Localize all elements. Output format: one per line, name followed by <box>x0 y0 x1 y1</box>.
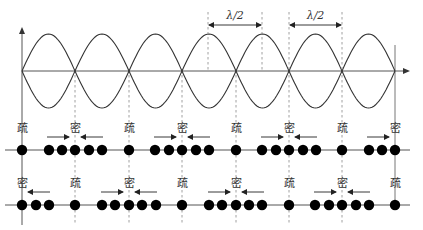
particle-dot <box>390 200 400 210</box>
particle-dot <box>311 145 321 155</box>
particle-dot <box>70 145 80 155</box>
particle-dot <box>257 200 267 210</box>
particle-dot <box>310 200 320 210</box>
particle-dot <box>124 145 134 155</box>
particle-row-1: 疏密疏密疏密疏密 <box>17 121 401 155</box>
particle-dot <box>231 200 241 210</box>
sparse-label: 疏 <box>390 176 401 190</box>
half-wavelength-label: λ/2 <box>225 9 244 22</box>
sparse-label: 疏 <box>337 121 348 135</box>
dense-label: 密 <box>17 176 28 190</box>
particle-dot <box>231 145 241 155</box>
dense-label: 密 <box>337 176 348 190</box>
particle-dot <box>257 145 267 155</box>
wave-lower-lobe <box>342 71 395 108</box>
wave-lower-lobe <box>236 71 289 108</box>
particle-dot <box>17 145 27 155</box>
dense-label: 密 <box>390 121 401 135</box>
particle-dot <box>84 145 94 155</box>
sparse-label: 疏 <box>177 176 188 190</box>
y-axis-arrow-icon <box>19 27 25 34</box>
particle-dot <box>244 200 254 210</box>
wave-lower-lobe <box>289 71 342 108</box>
particle-dot <box>70 200 80 210</box>
particle-dot <box>284 145 294 155</box>
particle-dot <box>337 200 347 210</box>
dense-label: 密 <box>231 176 242 190</box>
particle-dot <box>364 200 374 210</box>
wave-lower-lobe <box>75 71 129 108</box>
particle-dot <box>97 200 107 210</box>
wave-lower-lobe <box>182 71 236 108</box>
wave-upper-lobe <box>342 34 395 71</box>
x-axis-arrow-icon <box>403 68 410 74</box>
wave-upper-lobe <box>75 34 129 71</box>
dense-label: 密 <box>124 176 135 190</box>
particle-dot <box>337 145 347 155</box>
particle-dot <box>204 200 214 210</box>
particle-dot <box>191 145 201 155</box>
particle-dot <box>124 200 134 210</box>
sparse-label: 疏 <box>124 121 135 135</box>
particle-dot <box>97 145 107 155</box>
particle-dot <box>390 145 400 155</box>
half-wavelength-label: λ/2 <box>306 9 325 22</box>
dense-label: 密 <box>177 121 188 135</box>
particle-dot <box>31 200 41 210</box>
particle-dot <box>137 200 147 210</box>
particle-dot <box>57 145 67 155</box>
dense-label: 密 <box>70 121 81 135</box>
dense-label: 密 <box>284 121 295 135</box>
particle-dot <box>324 200 334 210</box>
particle-row-2: 密疏密疏密疏密疏 <box>17 176 401 210</box>
particle-dot <box>151 200 161 210</box>
sparse-label: 疏 <box>284 176 295 190</box>
particle-dot <box>164 145 174 155</box>
particle-dot <box>284 200 294 210</box>
particle-dot <box>177 145 187 155</box>
particle-dot <box>377 145 387 155</box>
wave-upper-lobe <box>236 34 289 71</box>
wave-upper-lobe <box>129 34 182 71</box>
sparse-label: 疏 <box>17 121 28 135</box>
particle-dot <box>150 145 160 155</box>
particle-dot <box>44 145 54 155</box>
particle-dot <box>204 145 214 155</box>
wave-lower-lobe <box>129 71 182 108</box>
particle-dot <box>17 200 27 210</box>
wave-upper-lobe <box>182 34 236 71</box>
wave-lower-lobe <box>22 71 75 108</box>
standing-wave-diagram: λ/2λ/2 疏密疏密疏密疏密 密疏密疏密疏密疏 <box>0 0 423 230</box>
wave-upper-lobe <box>289 34 342 71</box>
wave-upper-lobe <box>22 34 75 71</box>
sparse-label: 疏 <box>70 176 81 190</box>
particle-dot <box>298 145 308 155</box>
particle-dot <box>217 200 227 210</box>
particle-dot <box>271 145 281 155</box>
particle-dot <box>364 145 374 155</box>
particle-dot <box>351 200 361 210</box>
sparse-label: 疏 <box>231 121 242 135</box>
particle-dot <box>44 200 54 210</box>
half-wavelength-markers: λ/2λ/2 <box>209 9 341 25</box>
particle-dot <box>177 200 187 210</box>
particle-dot <box>110 200 120 210</box>
